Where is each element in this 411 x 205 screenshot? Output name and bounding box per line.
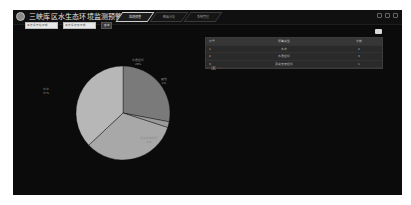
close-icon[interactable] — [393, 13, 398, 18]
export-icon[interactable] — [375, 29, 382, 34]
cell-count: 3 — [339, 54, 379, 58]
pie-chart: 水质超标28% 其他2% 藻类密度超标33% 水华37% — [13, 40, 213, 190]
tab-label: 数据分析 — [163, 15, 175, 19]
cell-type: 水质超标 — [229, 54, 339, 58]
cell-count: 2 — [339, 47, 379, 51]
cell-type: 水华 — [229, 47, 339, 51]
logo-icon — [16, 12, 25, 21]
pie-slice[interactable] — [123, 66, 170, 122]
cell-type: 藻类密度超标 — [229, 62, 339, 66]
tab-label: 监测预警 — [129, 15, 141, 19]
column-header: 预警类型 — [229, 39, 339, 43]
end-date-input[interactable]: 请选择结束日期 — [63, 22, 96, 29]
table-header: 序号 预警类型 次数 — [206, 38, 382, 46]
pie-svg — [13, 40, 213, 190]
warning-table: 序号 预警类型 次数 1 水华 2 2 水质超标 3 3 藻类密度超标 1 — [205, 37, 383, 69]
tab-label: 系统管理 — [197, 15, 209, 19]
table-row[interactable]: 3 藻类密度超标 1 — [206, 61, 382, 69]
query-button[interactable]: 查询 — [101, 22, 112, 29]
minimize-icon[interactable] — [377, 13, 382, 18]
nav-tabs: 监测预警 数据分析 系统管理 — [119, 12, 221, 22]
column-header: 次数 — [339, 39, 379, 43]
tab-monitoring[interactable]: 监测预警 — [115, 12, 154, 22]
table-row[interactable]: 1 水华 2 — [206, 46, 382, 54]
pie-label-right: 其他2% — [161, 78, 167, 85]
app-panel: 三峡库区水生态环境监测预警平台 监测预警 数据分析 系统管理 请选择开始日期 请… — [13, 10, 402, 195]
header-actions — [377, 13, 398, 18]
pie-label-left: 水华37% — [43, 88, 49, 95]
next-page-button[interactable]: › — [219, 66, 220, 70]
tab-analysis[interactable]: 数据分析 — [149, 12, 188, 22]
pie-label-top-right: 水质超标28% — [132, 59, 144, 66]
tab-system[interactable]: 系统管理 — [183, 12, 222, 22]
start-date-input[interactable]: 请选择开始日期 — [25, 22, 58, 29]
pie-label-bottom-right: 藻类密度超标33% — [140, 137, 158, 144]
filter-toolbar: 请选择开始日期 请选择结束日期 查询 — [25, 22, 112, 29]
table-row[interactable]: 2 水质超标 3 — [206, 53, 382, 61]
cell-count: 1 — [339, 62, 379, 66]
settings-icon[interactable] — [385, 13, 390, 18]
